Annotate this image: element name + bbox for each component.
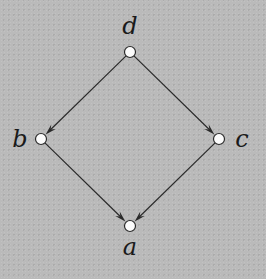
nodes-group [36,47,225,232]
node-label-b: b [12,125,27,153]
node-label-a: a [123,233,137,261]
edges-group [45,56,215,222]
node-a [125,221,136,232]
node-d [125,47,136,58]
node-b [36,134,47,145]
node-label-c: c [235,125,248,153]
node-c [214,134,225,145]
diagram-canvas: d b c a [0,0,266,279]
node-label-d: d [122,12,137,40]
edge-b-a [45,143,121,217]
edge-c-a [139,143,215,217]
edge-d-c [134,56,210,130]
edge-d-b [50,56,126,130]
graph-svg: d b c a [0,0,266,279]
